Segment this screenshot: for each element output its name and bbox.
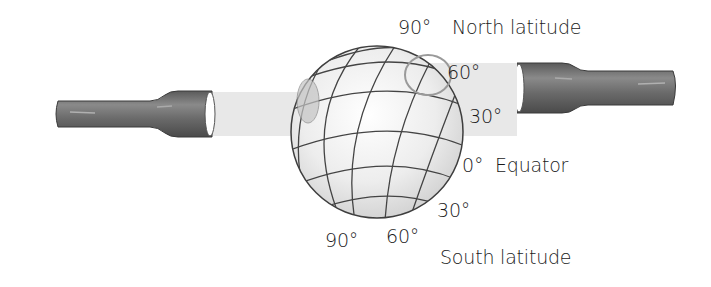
label-south-90: 90° (325, 229, 358, 251)
right-tube-icon (514, 63, 676, 113)
label-north-90: 90° (398, 16, 431, 38)
globe-icon (290, 46, 463, 222)
left-tube-icon (56, 91, 215, 137)
diagram: 90° North latitude 60° 30° 0° Equator 30… (0, 0, 711, 287)
label-north-latitude: North latitude (452, 16, 581, 38)
label-north-60: 60° (447, 61, 480, 83)
label-south-60: 60° (386, 225, 419, 247)
label-equator-0: 0° (462, 154, 483, 176)
label-south-30: 30° (437, 199, 470, 221)
label-equator: Equator (495, 154, 568, 176)
label-south-latitude: South latitude (440, 246, 571, 268)
label-north-30: 30° (469, 105, 502, 127)
entry-spot (297, 79, 319, 123)
